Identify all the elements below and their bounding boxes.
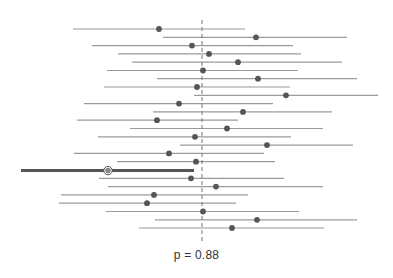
point-estimate: [176, 101, 182, 107]
point-estimate: [264, 142, 270, 148]
point-estimate: [156, 26, 162, 32]
point-estimate: [254, 217, 260, 223]
point-estimate: [240, 109, 246, 115]
point-estimate: [192, 134, 198, 140]
forest-plot-canvas: [0, 0, 393, 278]
point-estimate: [253, 34, 259, 40]
point-estimate: [200, 209, 206, 215]
forest-plot: p = 0.88: [0, 0, 393, 278]
point-estimate: [188, 175, 194, 181]
highlighted-point-estimate: [105, 168, 111, 174]
point-estimate: [224, 126, 230, 132]
point-estimate: [189, 43, 195, 49]
point-estimate: [194, 84, 200, 90]
p-value-annotation: p = 0.88: [0, 248, 393, 262]
point-estimate: [206, 51, 212, 57]
point-estimate: [229, 225, 235, 231]
point-estimate: [213, 184, 219, 190]
point-estimate: [255, 76, 261, 82]
confidence-intervals: [21, 29, 378, 228]
point-estimate: [166, 151, 172, 157]
point-estimate: [151, 192, 157, 198]
point-estimate: [154, 117, 160, 123]
point-estimate: [200, 68, 206, 74]
point-estimate: [283, 92, 289, 98]
point-estimate: [144, 200, 150, 206]
point-estimate: [235, 59, 241, 65]
point-estimate: [193, 159, 199, 165]
